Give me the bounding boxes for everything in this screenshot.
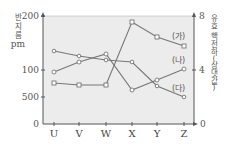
- x-label-u: U: [50, 128, 58, 139]
- right-tick-label: 4: [199, 65, 205, 75]
- x-label-z: Z: [181, 128, 188, 139]
- svg-text:지: 지: [15, 22, 22, 31]
- chart-svg: 200 100 500 0 반 지 름 pm 8 4 0 유 효 핵 전 하 (…: [0, 0, 226, 145]
- left-ticks: 200 100 500 0: [22, 11, 45, 129]
- series-label-da: (다): [172, 84, 185, 93]
- right-tick-label: 8: [199, 11, 205, 21]
- svg-text:pm: pm: [11, 39, 26, 49]
- x-label-w: W: [101, 128, 112, 139]
- x-label-v: V: [74, 128, 83, 139]
- x-label-y: Y: [153, 128, 161, 139]
- series-label-ga: (가): [172, 32, 185, 41]
- x-categories: U V W X Y Z: [50, 122, 188, 139]
- left-tick-label: 100: [22, 65, 39, 75]
- right-axis-arrow-icon: [192, 12, 196, 17]
- x-axis-arrow-icon: [193, 122, 198, 126]
- right-tick-label: 0: [200, 119, 206, 129]
- svg-text:효: 효: [211, 22, 218, 31]
- right-axis-label: 유 효 핵 전 하 ( 상 댓 값 ): [211, 14, 218, 92]
- x-label-x: X: [128, 128, 136, 139]
- left-tick-label: 200: [22, 11, 39, 21]
- svg-text:): ): [213, 83, 216, 92]
- series-label-na: (나): [172, 56, 185, 65]
- left-tick-label: 0: [33, 119, 39, 129]
- svg-text:반: 반: [15, 13, 22, 22]
- left-tick-label: 500: [22, 92, 39, 102]
